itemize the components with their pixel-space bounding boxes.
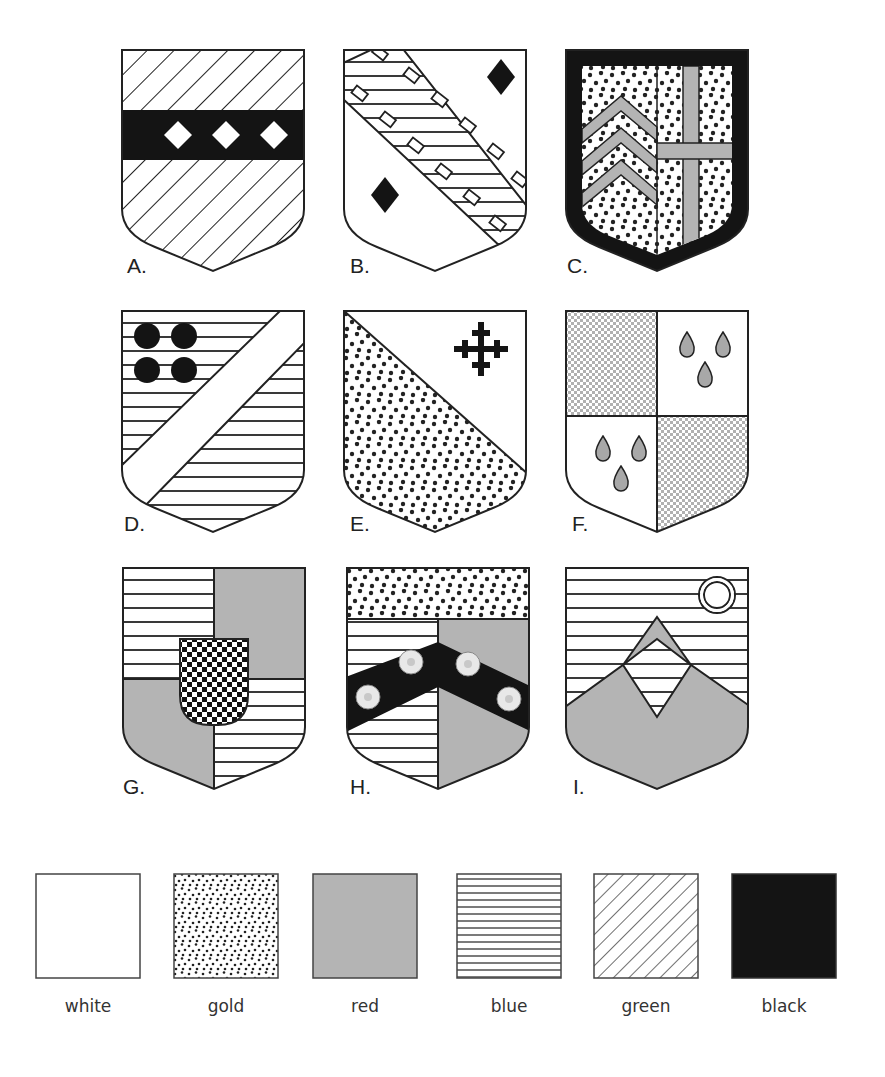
shield-d	[121, 310, 307, 540]
shield-b	[343, 49, 529, 279]
legend-label-red: red	[312, 996, 418, 1016]
shield-a-label: A.	[127, 254, 147, 278]
legend-swatch-blue	[456, 873, 562, 979]
shield-d-label: D.	[124, 512, 145, 536]
legend-label-white: white	[35, 996, 141, 1016]
legend-swatch-red	[312, 873, 418, 979]
legend-label-gold: gold	[173, 996, 279, 1016]
shield-f	[565, 310, 751, 540]
legend-label-green: green	[593, 996, 699, 1016]
shield-b-graphic	[343, 49, 529, 275]
shield-d-graphic	[121, 310, 307, 536]
shield-e-label: E.	[350, 512, 370, 536]
shield-c	[565, 49, 751, 279]
shield-a-graphic	[121, 49, 307, 275]
shield-f-graphic	[565, 310, 751, 536]
shield-e	[343, 310, 529, 540]
shield-e-graphic	[343, 310, 529, 536]
shield-g	[122, 567, 308, 797]
shield-b-label: B.	[350, 254, 370, 278]
shield-h-label: H.	[350, 775, 371, 799]
legend-swatch-black	[731, 873, 837, 979]
legend-swatch-gold	[173, 873, 279, 979]
shield-g-graphic	[122, 567, 308, 793]
legend-label-blue: blue	[456, 996, 562, 1016]
shield-i	[565, 567, 751, 797]
legend-swatch-green	[593, 873, 699, 979]
shield-f-label: F.	[572, 512, 588, 536]
shield-i-label: I.	[573, 775, 585, 799]
shield-i-graphic	[565, 567, 751, 793]
shield-h	[346, 567, 532, 797]
shield-g-label: G.	[123, 775, 145, 799]
shield-c-label: C.	[567, 254, 588, 278]
legend-label-black: black	[731, 996, 837, 1016]
shield-a	[121, 49, 307, 279]
shield-h-graphic	[346, 567, 532, 793]
shield-c-graphic	[565, 49, 751, 275]
legend-swatch-white	[35, 873, 141, 979]
